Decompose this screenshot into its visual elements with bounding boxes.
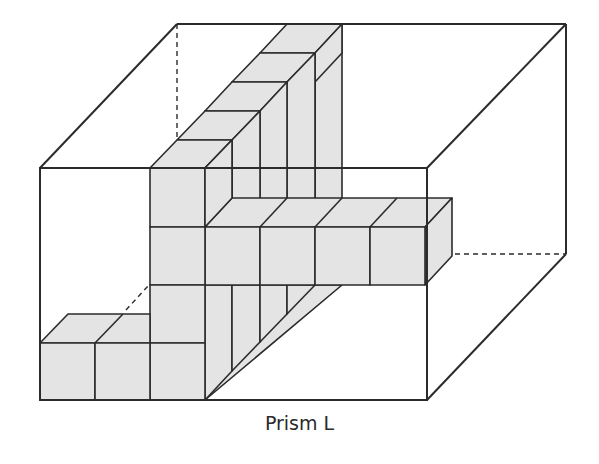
figure-caption: Prism L (0, 412, 599, 434)
prism-top-left-edge (40, 24, 177, 168)
prism-bottom-right-edge (427, 254, 566, 400)
cube-structure (40, 24, 452, 400)
prism-top-right-edge (427, 24, 566, 168)
prism-diagram (0, 0, 599, 464)
hidden-bottom-left-edge (126, 286, 148, 310)
